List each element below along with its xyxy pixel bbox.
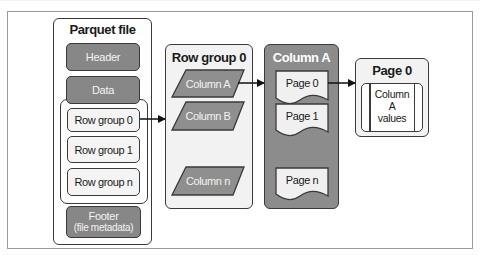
column-b-label: Column B [176,102,240,130]
page-n-label: Page n [276,170,328,190]
column-a-label: Column A [176,70,240,97]
diagram-shapes [0,0,480,255]
page-1-label: Page 1 [276,106,328,126]
page-0-label: Page 0 [276,73,328,93]
column-n-label: Column n [176,167,240,195]
